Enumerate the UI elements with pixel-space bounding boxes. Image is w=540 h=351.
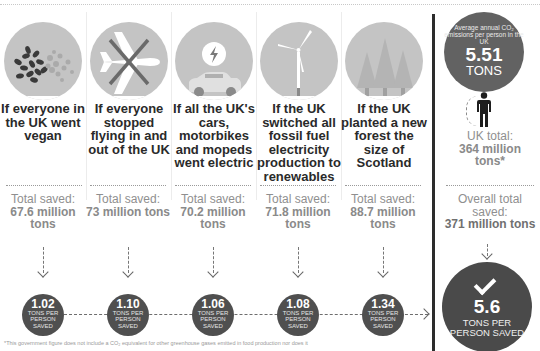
per-person-badge: 1.34 TONS PER PERSON SAVED: [362, 294, 404, 336]
scenario-vegan: If everyone in the UK went vegan: [0, 12, 84, 212]
arrow-down-icon: [377, 266, 388, 277]
per-person-unit: TONS PER PERSON SAVED: [107, 310, 149, 329]
per-person-badge: 1.06 TONS PER PERSON SAVED: [192, 294, 234, 336]
crossed-plane-icon: [90, 22, 168, 100]
scenario-headline: If the UK planted a new forest the size …: [341, 102, 427, 170]
scenario-headline: If the UK switched all fossil fuel elect…: [256, 102, 342, 183]
total-saved-value: 73 million tons: [86, 205, 170, 219]
overall-total-value: 371 million tons: [445, 217, 536, 231]
arrow-down-icon: [122, 266, 133, 277]
arrow-down-icon: [292, 266, 303, 277]
person-icon: [476, 92, 492, 128]
dotted-rule: [345, 185, 421, 186]
total-saved-value: 88.7 million tons: [350, 205, 415, 232]
section-divider: [432, 14, 435, 351]
arrow-down-icon: [37, 266, 48, 277]
scenario-headline: If everyone stopped flying in and out of…: [86, 102, 172, 156]
per-person-badge: 1.10 TONS PER PERSON SAVED: [107, 294, 149, 336]
total-saved: Total saved: 73 million tons: [86, 193, 170, 218]
electric-car-icon: [175, 22, 253, 100]
top-dotted-rule: [0, 4, 540, 5]
scenario-forest: If the UK planted a new forest the size …: [341, 12, 425, 212]
arrow-down-icon: [481, 248, 492, 259]
per-person-badge: 1.02 TONS PER PERSON SAVED: [22, 294, 64, 336]
total-saved: Total saved: 88.7 million tons: [341, 193, 425, 231]
per-person-unit: TONS PER PERSON SAVED: [22, 310, 64, 329]
dotted-rule: [446, 185, 534, 186]
overall-total-label: Overall total saved:: [458, 192, 522, 219]
dotted-rule: [90, 185, 166, 186]
total-saved-value: 70.2 million tons: [180, 205, 245, 232]
arrow-down-icon: [207, 266, 218, 277]
uk-total: UK total: 364 million tons*: [444, 130, 536, 168]
overall-total: Overall total saved: 371 million tons: [444, 193, 536, 231]
per-person-unit: TONS PER PERSON SAVED: [192, 310, 234, 329]
per-person-value: 1.34: [362, 298, 404, 310]
scenario-headline: If everyone in the UK went vegan: [0, 102, 86, 143]
per-person-value: 1.10: [107, 298, 149, 310]
total-saved: Total saved: 67.6 million tons: [1, 193, 85, 231]
beans-icon: [4, 22, 82, 100]
arrow-right-icon: [418, 308, 429, 319]
total-saved: Total saved: 70.2 million tons: [171, 193, 255, 231]
total-saved-value: 71.8 million tons: [265, 205, 330, 232]
per-person-value: 1.06: [192, 298, 234, 310]
scenario-headline: If all the UK's cars, motorbikes and mop…: [171, 102, 257, 170]
overall-per-person-circle: 5.6 TONS PER PERSON SAVED: [442, 262, 532, 351]
checkmark-icon: [474, 273, 497, 296]
total-saved: Total saved: 71.8 million tons: [256, 193, 340, 231]
average-value: 5.51: [444, 46, 524, 64]
overall-per-person-unit: TONS PER PERSON SAVED: [442, 318, 532, 337]
dotted-rule: [175, 185, 251, 186]
footnote: *This government figure does not include…: [4, 340, 308, 346]
dotted-rule: [260, 185, 336, 186]
scenario-electric-vehicles: If all the UK's cars, motorbikes and mop…: [171, 12, 255, 212]
per-person-unit: TONS PER PERSON SAVED: [362, 310, 404, 329]
per-person-badge: 1.08 TONS PER PERSON SAVED: [277, 294, 319, 336]
average-unit: TONS: [444, 64, 524, 77]
average-emissions-circle: Average annual CO₂ emissions per person …: [444, 12, 524, 92]
forest-icon: [345, 22, 423, 100]
average-caption: Average annual CO₂ emissions per person …: [444, 24, 524, 45]
overall-per-person-value: 5.6: [442, 298, 532, 316]
dotted-rule: [6, 185, 82, 186]
per-person-value: 1.02: [22, 298, 64, 310]
scenario-renewables: If the UK switched all fossil fuel elect…: [256, 12, 340, 212]
wind-turbine-icon: [260, 22, 338, 100]
per-person-unit: TONS PER PERSON SAVED: [277, 310, 319, 329]
scenario-flying: If everyone stopped flying in and out of…: [86, 12, 170, 212]
uk-total-value: 364 million tons*: [459, 142, 521, 169]
total-saved-value: 67.6 million tons: [10, 205, 75, 232]
per-person-value: 1.08: [277, 298, 319, 310]
